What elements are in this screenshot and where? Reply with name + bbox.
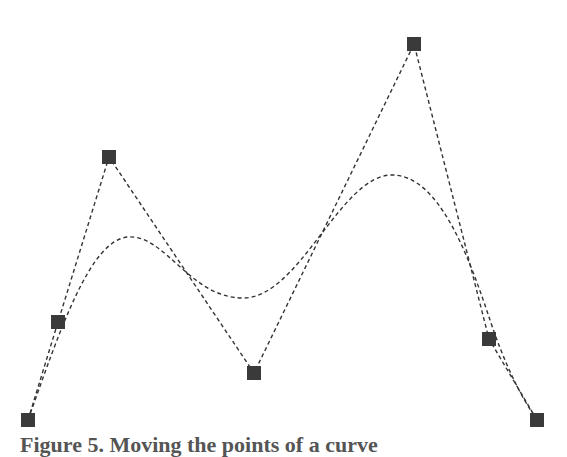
figure-caption: Figure 5. Moving the points of a curve [20, 434, 378, 456]
control-point-1[interactable] [51, 315, 65, 329]
control-point-2[interactable] [102, 150, 116, 164]
control-point-4[interactable] [407, 37, 421, 51]
control-point-6[interactable] [530, 413, 544, 427]
curve-path [28, 175, 537, 420]
control-points [21, 37, 544, 427]
control-polygon [28, 44, 537, 420]
control-point-5[interactable] [482, 332, 496, 346]
control-point-3[interactable] [247, 366, 261, 380]
control-point-0[interactable] [21, 413, 35, 427]
